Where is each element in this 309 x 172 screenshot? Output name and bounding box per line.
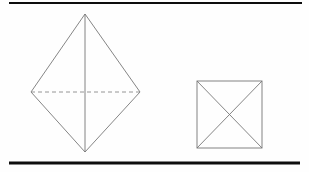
figure-page (0, 0, 309, 172)
page-background (0, 0, 309, 172)
geometry-figure-canvas (0, 0, 309, 172)
